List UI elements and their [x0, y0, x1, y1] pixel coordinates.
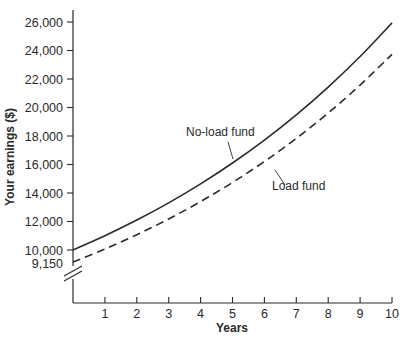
y-tick-label: 9,150	[32, 257, 63, 271]
x-tick-label: 8	[325, 307, 332, 321]
y-axis-ticks: 9,15010,00012,00014,00016,00018,00020,00…	[25, 16, 73, 272]
x-tick-label: 2	[133, 307, 140, 321]
x-tick-label: 1	[101, 307, 108, 321]
x-tick-label: 3	[165, 307, 172, 321]
y-tick-label: 22,000	[25, 73, 63, 87]
x-tick-label: 5	[229, 307, 236, 321]
x-tick-label: 7	[293, 307, 300, 321]
x-axis-ticks: 12345678910	[101, 297, 399, 321]
axis-break-icon	[64, 266, 82, 281]
annotations: No-load fund Load fund	[186, 125, 325, 193]
y-tick-label: 12,000	[25, 215, 63, 229]
series-lines	[73, 23, 392, 262]
y-tick-label: 24,000	[25, 44, 63, 58]
annotation-no-load: No-load fund	[186, 125, 255, 139]
y-tick-label: 18,000	[25, 130, 63, 144]
x-tick-label: 4	[197, 307, 204, 321]
annotation-load: Load fund	[272, 179, 325, 193]
y-tick-label: 10,000	[25, 244, 63, 258]
y-tick-label: 20,000	[25, 101, 63, 115]
x-tick-label: 10	[385, 307, 399, 321]
x-axis-title: Years	[216, 321, 248, 335]
y-tick-label: 14,000	[25, 187, 63, 201]
x-tick-label: 6	[261, 307, 268, 321]
axes	[64, 10, 392, 303]
y-tick-label: 16,000	[25, 158, 63, 172]
line-chart: 9,15010,00012,00014,00016,00018,00020,00…	[0, 0, 404, 342]
y-axis-title: Your earnings ($)	[3, 108, 17, 206]
annotation-no-load-leader	[228, 142, 233, 159]
y-tick-label: 26,000	[25, 16, 63, 30]
x-tick-label: 9	[357, 307, 364, 321]
